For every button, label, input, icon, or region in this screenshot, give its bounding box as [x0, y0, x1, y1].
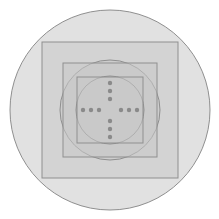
dot-down-2 — [108, 127, 112, 131]
dot-right-2 — [127, 108, 131, 112]
dot-left-3 — [97, 108, 101, 112]
layer-group — [10, 10, 210, 210]
dot-left-2 — [89, 108, 93, 112]
dot-up-3 — [108, 97, 112, 101]
dot-right-1 — [119, 108, 123, 112]
dot-down-1 — [108, 119, 112, 123]
inner-square — [77, 77, 143, 143]
nested-shapes-figure — [0, 0, 219, 219]
dot-up-1 — [108, 81, 112, 85]
dot-down-3 — [108, 135, 112, 139]
dot-left-1 — [81, 108, 85, 112]
dot-up-2 — [108, 89, 112, 93]
dot-right-3 — [135, 108, 139, 112]
